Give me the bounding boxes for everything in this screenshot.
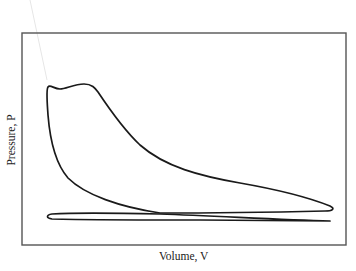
scan-artifact — [30, 0, 47, 80]
power-loop-curve — [47, 84, 333, 213]
x-axis-label: Volume, V — [159, 251, 208, 263]
pv-diagram-canvas — [0, 0, 356, 271]
y-axis-label: Pressure, P — [6, 114, 18, 165]
pumping-loop-curve — [48, 213, 331, 221]
